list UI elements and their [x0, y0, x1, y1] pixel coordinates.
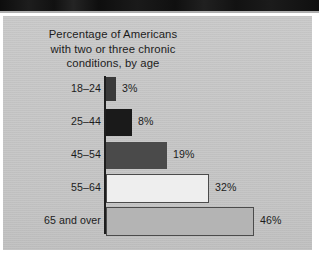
bar-row: 25–44 8% [3, 107, 312, 138]
bar-rect [106, 77, 116, 101]
chart-panel: Percentage of Americans with two or thre… [3, 16, 312, 250]
bar-rect [106, 207, 254, 236]
scan-artifact-strip [0, 0, 319, 11]
bar-category-label: 18–24 [71, 82, 101, 94]
bar-rect [106, 174, 209, 203]
bar-chart-plot: 18–24 3% 25–44 8% 45–54 19% 55–64 32% 65 [3, 74, 312, 239]
bar-value-label: 8% [138, 115, 154, 127]
bar-category-label: 65 and over [44, 214, 101, 226]
bar-category-label: 45–54 [71, 148, 101, 160]
bar-value-label: 19% [173, 148, 195, 160]
bar-value-label: 46% [260, 214, 282, 226]
scan-artifact-edge [0, 11, 319, 13]
figure-root: Percentage of Americans with two or thre… [0, 0, 319, 258]
bar-row: 18–24 3% [3, 74, 312, 105]
bar-row: 55–64 32% [3, 173, 312, 204]
chart-title: Percentage of Americans with two or thre… [15, 27, 211, 71]
bar-category-label: 55–64 [71, 181, 101, 193]
bar-rect [106, 109, 132, 136]
bar-value-label: 32% [215, 181, 237, 193]
chart-title-line-2: with two or three chronic [15, 42, 211, 57]
bar-value-label: 3% [122, 82, 138, 94]
bar-category-label: 25–44 [71, 115, 101, 127]
bar-row: 65 and over 46% [3, 206, 312, 237]
bar-rect [106, 142, 167, 169]
chart-title-line-3: conditions, by age [15, 56, 211, 71]
bar-row: 45–54 19% [3, 140, 312, 171]
chart-title-line-1: Percentage of Americans [15, 27, 211, 42]
